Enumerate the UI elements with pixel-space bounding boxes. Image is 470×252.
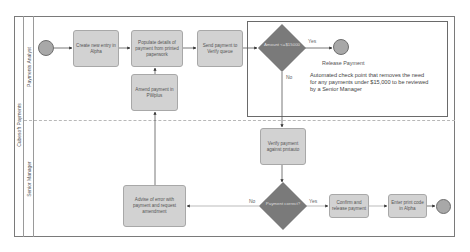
task-label: Populate details of payment from printed… — [134, 40, 180, 58]
task-create-entry[interactable]: Create new entry in Alpha — [73, 30, 119, 67]
task-populate-details[interactable]: Populate details of payment from printed… — [131, 30, 183, 67]
process-diagram: Cubesoft Payments Payments Analyst Senio… — [0, 0, 470, 252]
task-enter-print-code[interactable]: Enter print code in Alpha — [388, 194, 427, 218]
edge-label-no-verify: No — [286, 74, 292, 80]
gateway-payment-correct-label: Payment correct? — [263, 201, 303, 207]
task-send-verify[interactable]: Send payment to Verify queue — [197, 30, 243, 67]
release-payment-event-circle[interactable] — [333, 39, 349, 55]
task-label: Amend payment in PWplus — [134, 87, 175, 99]
task-label: Send payment to Verify queue — [200, 43, 240, 55]
gateway-amount-label: Amount <=$15000 — [262, 42, 302, 48]
task-amend-payment[interactable]: Amend payment in PWplus — [131, 74, 178, 111]
release-payment-label: Release Payment — [322, 60, 365, 66]
task-label: Verify payment against pmtauto — [263, 141, 303, 153]
task-confirm-release[interactable]: Confirm and release payment — [329, 194, 369, 218]
edge-label-yes-release: Yes — [308, 38, 316, 44]
edge-label-no-advise: No — [249, 198, 255, 204]
task-label: Advise of error with payment and request… — [126, 197, 183, 215]
task-advise-error[interactable]: Advise of error with payment and request… — [123, 185, 186, 227]
task-verify-payment[interactable]: Verify payment against pmtauto — [260, 128, 306, 165]
task-label: Confirm and release payment — [332, 200, 366, 212]
task-label: Enter print code in Alpha — [391, 200, 424, 212]
edge-label-yes-confirm: Yes — [309, 198, 317, 204]
start-event-circle[interactable] — [38, 40, 54, 56]
annotation-text: Automated check point that removes the n… — [310, 72, 430, 93]
task-label: Create new entry in Alpha — [76, 43, 116, 55]
end-event-circle[interactable] — [436, 199, 451, 214]
